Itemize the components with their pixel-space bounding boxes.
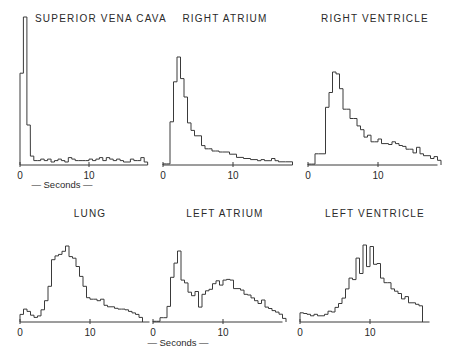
x-tick-label: 0 <box>17 170 23 181</box>
histogram-series <box>163 57 293 165</box>
histogram-figure: SUPERIOR VENA CAVA010RIGHT ATRIUM010RIGH… <box>0 0 454 360</box>
x-axis-title-row1: — Seconds — <box>31 179 93 190</box>
x-tick-label: 10 <box>364 327 376 338</box>
x-tick-label: 10 <box>217 327 229 338</box>
panel-right-ventricle: RIGHT VENTRICLE010 <box>305 13 441 181</box>
x-tick-label: 0 <box>17 327 23 338</box>
panel-right-atrium: RIGHT ATRIUM010 <box>160 13 292 181</box>
panel-title: LEFT VENTRICLE <box>325 208 425 219</box>
panel-left-atrium: LEFT ATRIUM010 <box>150 208 286 338</box>
histogram-series <box>20 246 143 322</box>
x-axis-title-row2: — Seconds — <box>147 337 209 348</box>
panel-left-ventricle: LEFT VENTRICLE010 <box>297 208 429 338</box>
histogram-series <box>153 251 286 322</box>
panel-title: RIGHT ATRIUM <box>182 13 267 24</box>
x-tick-label: 10 <box>84 327 96 338</box>
histogram-series <box>20 17 148 165</box>
x-tick-label: 10 <box>227 170 239 181</box>
panel-lung: LUNG010 <box>17 208 149 338</box>
x-tick-label: 0 <box>297 327 303 338</box>
panel-superior-vena-cava: SUPERIOR VENA CAVA010 <box>17 13 167 181</box>
histogram-series <box>300 245 423 322</box>
panel-title: LEFT ATRIUM <box>186 208 263 219</box>
x-tick-label: 0 <box>305 170 311 181</box>
panel-title: SUPERIOR VENA CAVA <box>35 13 167 24</box>
panel-title: LUNG <box>74 208 107 219</box>
histogram-series <box>308 72 441 165</box>
x-tick-label: 10 <box>372 170 384 181</box>
x-tick-label: 0 <box>160 170 166 181</box>
panel-title: RIGHT VENTRICLE <box>321 13 429 24</box>
